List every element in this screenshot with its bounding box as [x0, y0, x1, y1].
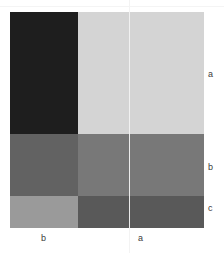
top-divider-rule [0, 6, 224, 7]
mosaic-plot-area [10, 12, 204, 228]
mosaic-cell-b-c[interactable] [10, 196, 78, 228]
row-label-c: c [208, 204, 213, 213]
column-label-a: a [138, 234, 143, 243]
mosaic-cell-b-a[interactable] [10, 12, 78, 134]
mosaic-cell-b-b[interactable] [10, 134, 78, 196]
mosaic-cell-a-a[interactable] [78, 12, 204, 134]
row-label-b: b [208, 163, 213, 172]
mosaic-cell-a-b[interactable] [78, 134, 204, 196]
mosaic-plot-figure: a b c b a [0, 0, 224, 253]
column-label-b: b [41, 234, 46, 243]
row-label-a: a [208, 70, 213, 79]
mosaic-cell-a-c[interactable] [78, 196, 204, 228]
vertical-guide-line [129, 0, 130, 253]
